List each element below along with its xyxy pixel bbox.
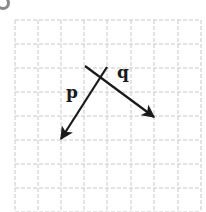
vector-diagram: p q <box>0 0 206 212</box>
grid-and-vectors <box>0 0 206 212</box>
grid <box>15 20 201 212</box>
vector-label-p: p <box>66 84 78 101</box>
vector-label-q: q <box>117 64 129 81</box>
